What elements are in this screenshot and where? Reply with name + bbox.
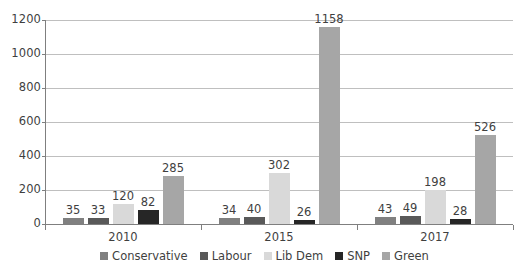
bar[interactable] <box>475 135 496 224</box>
legend-label: Green <box>394 250 429 262</box>
gridline <box>45 156 513 157</box>
plot-area: 3533120822853440302261158434919828526 <box>45 20 513 224</box>
bar[interactable] <box>163 176 184 224</box>
bar[interactable] <box>450 219 471 224</box>
y-tick-mark <box>42 122 46 123</box>
gridline <box>45 88 513 89</box>
bar-value-label: 40 <box>237 203 272 215</box>
bar-value-label: 526 <box>468 121 503 133</box>
legend-label: Conservative <box>112 250 188 262</box>
y-axis-labels: 020040060080010001200 <box>0 0 41 272</box>
bar[interactable] <box>294 220 315 224</box>
gridline <box>45 20 513 21</box>
chart-legend: ConservativeLabourLib DemSNPGreen <box>0 250 529 262</box>
y-tick-label: 0 <box>1 218 41 230</box>
bar-value-label: 49 <box>393 202 428 214</box>
bar-value-label: 302 <box>262 159 297 171</box>
y-tick-mark <box>42 88 46 89</box>
y-tick-label: 600 <box>1 116 41 128</box>
x-tick-mark <box>201 225 202 230</box>
y-tick-mark <box>42 156 46 157</box>
bar[interactable] <box>244 217 265 224</box>
legend-item-conservative[interactable]: Conservative <box>100 250 188 262</box>
x-tick-mark <box>45 225 46 230</box>
bar-value-label: 26 <box>287 206 322 218</box>
legend-swatch-icon <box>382 252 390 260</box>
gridline <box>45 54 513 55</box>
x-group-label: 2015 <box>239 231 319 243</box>
y-tick-mark <box>42 20 46 21</box>
bar-value-label: 1158 <box>312 13 347 25</box>
legend-label: Labour <box>212 250 252 262</box>
legend-swatch-icon <box>100 252 108 260</box>
x-axis-baseline <box>45 224 513 225</box>
legend-swatch-icon <box>200 252 208 260</box>
bar[interactable] <box>319 27 340 224</box>
bar-value-label: 198 <box>418 176 453 188</box>
legend-swatch-icon <box>335 252 343 260</box>
y-tick-mark <box>42 190 46 191</box>
bar-chart: 020040060080010001200 353312082285344030… <box>0 0 529 272</box>
legend-item-green[interactable]: Green <box>382 250 429 262</box>
x-group-label: 2010 <box>83 231 163 243</box>
x-tick-mark <box>513 225 514 230</box>
x-group-label: 2017 <box>395 231 475 243</box>
bar-value-label: 82 <box>131 196 166 208</box>
bar[interactable] <box>219 218 240 224</box>
bar-value-label: 33 <box>81 204 116 216</box>
legend-item-labour[interactable]: Labour <box>200 250 252 262</box>
legend-item-snp[interactable]: SNP <box>335 250 370 262</box>
legend-item-lib-dem[interactable]: Lib Dem <box>264 250 324 262</box>
y-tick-label: 800 <box>1 82 41 94</box>
bar[interactable] <box>88 218 109 224</box>
bar[interactable] <box>375 217 396 224</box>
gridline <box>45 122 513 123</box>
legend-label: SNP <box>347 250 370 262</box>
x-tick-mark <box>357 225 358 230</box>
y-tick-label: 1200 <box>1 14 41 26</box>
y-tick-label: 1000 <box>1 48 41 60</box>
bar[interactable] <box>63 218 84 224</box>
bar[interactable] <box>138 210 159 224</box>
y-tick-label: 400 <box>1 150 41 162</box>
y-tick-label: 200 <box>1 184 41 196</box>
legend-swatch-icon <box>264 252 272 260</box>
legend-label: Lib Dem <box>276 250 324 262</box>
y-tick-mark <box>42 54 46 55</box>
bar-value-label: 28 <box>443 205 478 217</box>
y-tick-mark <box>42 224 46 225</box>
bar-value-label: 285 <box>156 162 191 174</box>
bar[interactable] <box>400 216 421 224</box>
